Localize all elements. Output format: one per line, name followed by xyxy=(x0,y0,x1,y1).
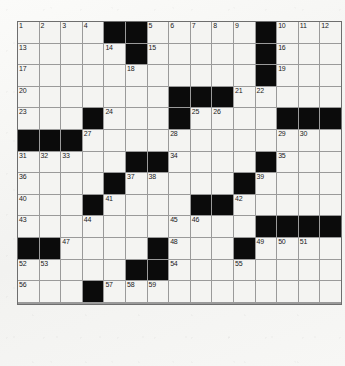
letter-square[interactable] xyxy=(104,260,125,281)
letter-square[interactable] xyxy=(83,152,104,173)
letter-square[interactable] xyxy=(191,173,212,194)
letter-square[interactable]: 15 xyxy=(148,44,169,65)
letter-square[interactable]: 43 xyxy=(18,216,39,237)
letter-square[interactable]: 4 xyxy=(83,22,104,43)
letter-square[interactable]: 5 xyxy=(148,22,169,43)
letter-square[interactable]: 40 xyxy=(18,195,39,216)
letter-square[interactable] xyxy=(83,87,104,108)
letter-square[interactable]: 42 xyxy=(234,195,255,216)
letter-square[interactable] xyxy=(169,173,190,194)
letter-square[interactable] xyxy=(191,238,212,259)
letter-square[interactable] xyxy=(212,65,233,86)
letter-square[interactable]: 59 xyxy=(148,281,169,302)
letter-square[interactable]: 33 xyxy=(61,152,82,173)
letter-square[interactable]: 1 xyxy=(18,22,39,43)
letter-square[interactable] xyxy=(40,44,61,65)
letter-square[interactable] xyxy=(126,216,147,237)
letter-square[interactable] xyxy=(191,44,212,65)
letter-square[interactable] xyxy=(212,238,233,259)
letter-square[interactable]: 7 xyxy=(191,22,212,43)
letter-square[interactable]: 49 xyxy=(256,238,277,259)
letter-square[interactable] xyxy=(299,65,320,86)
letter-square[interactable]: 2 xyxy=(40,22,61,43)
letter-square[interactable] xyxy=(83,260,104,281)
letter-square[interactable]: 6 xyxy=(169,22,190,43)
letter-square[interactable]: 36 xyxy=(18,173,39,194)
letter-square[interactable]: 41 xyxy=(104,195,125,216)
letter-square[interactable] xyxy=(104,152,125,173)
letter-square[interactable] xyxy=(83,173,104,194)
letter-square[interactable] xyxy=(191,152,212,173)
letter-square[interactable] xyxy=(61,87,82,108)
letter-square[interactable]: 20 xyxy=(18,87,39,108)
letter-square[interactable] xyxy=(234,216,255,237)
letter-square[interactable]: 27 xyxy=(83,130,104,151)
letter-square[interactable] xyxy=(126,87,147,108)
letter-square[interactable] xyxy=(212,173,233,194)
letter-square[interactable]: 30 xyxy=(299,130,320,151)
letter-square[interactable] xyxy=(40,281,61,302)
letter-square[interactable] xyxy=(234,130,255,151)
letter-square[interactable]: 37 xyxy=(126,173,147,194)
letter-square[interactable] xyxy=(104,216,125,237)
letter-square[interactable] xyxy=(148,130,169,151)
letter-square[interactable] xyxy=(299,195,320,216)
letter-square[interactable] xyxy=(61,281,82,302)
letter-square[interactable] xyxy=(83,238,104,259)
letter-square[interactable] xyxy=(169,65,190,86)
letter-square[interactable] xyxy=(61,260,82,281)
letter-square[interactable] xyxy=(212,281,233,302)
letter-square[interactable] xyxy=(40,87,61,108)
letter-square[interactable] xyxy=(61,216,82,237)
letter-square[interactable] xyxy=(320,238,341,259)
letter-square[interactable]: 21 xyxy=(234,87,255,108)
letter-square[interactable] xyxy=(126,108,147,129)
letter-square[interactable] xyxy=(234,65,255,86)
letter-square[interactable]: 38 xyxy=(148,173,169,194)
letter-square[interactable]: 24 xyxy=(104,108,125,129)
letter-square[interactable]: 51 xyxy=(299,238,320,259)
letter-square[interactable] xyxy=(191,130,212,151)
letter-square[interactable] xyxy=(256,108,277,129)
letter-square[interactable]: 53 xyxy=(40,260,61,281)
letter-square[interactable] xyxy=(40,173,61,194)
letter-square[interactable] xyxy=(234,281,255,302)
letter-square[interactable] xyxy=(191,281,212,302)
letter-square[interactable] xyxy=(61,65,82,86)
letter-square[interactable]: 48 xyxy=(169,238,190,259)
letter-square[interactable] xyxy=(104,238,125,259)
letter-square[interactable]: 35 xyxy=(277,152,298,173)
crossword-grid[interactable]: 1234567891011121314151617181920212223242… xyxy=(17,21,342,305)
letter-square[interactable] xyxy=(277,195,298,216)
letter-square[interactable]: 50 xyxy=(277,238,298,259)
letter-square[interactable] xyxy=(256,195,277,216)
letter-square[interactable] xyxy=(61,173,82,194)
letter-square[interactable]: 52 xyxy=(18,260,39,281)
letter-square[interactable]: 32 xyxy=(40,152,61,173)
letter-square[interactable] xyxy=(169,195,190,216)
letter-square[interactable] xyxy=(320,281,341,302)
letter-square[interactable]: 3 xyxy=(61,22,82,43)
letter-square[interactable]: 39 xyxy=(256,173,277,194)
letter-square[interactable] xyxy=(148,216,169,237)
letter-square[interactable] xyxy=(83,44,104,65)
letter-square[interactable] xyxy=(234,44,255,65)
letter-square[interactable] xyxy=(320,65,341,86)
letter-square[interactable] xyxy=(320,130,341,151)
letter-square[interactable]: 12 xyxy=(320,22,341,43)
letter-square[interactable] xyxy=(191,65,212,86)
letter-square[interactable]: 25 xyxy=(191,108,212,129)
letter-square[interactable]: 14 xyxy=(104,44,125,65)
letter-square[interactable] xyxy=(256,281,277,302)
letter-square[interactable]: 18 xyxy=(126,65,147,86)
letter-square[interactable]: 11 xyxy=(299,22,320,43)
letter-square[interactable] xyxy=(277,87,298,108)
letter-square[interactable]: 19 xyxy=(277,65,298,86)
letter-square[interactable]: 17 xyxy=(18,65,39,86)
letter-square[interactable] xyxy=(299,44,320,65)
letter-square[interactable] xyxy=(299,152,320,173)
letter-square[interactable] xyxy=(212,130,233,151)
letter-square[interactable] xyxy=(256,260,277,281)
letter-square[interactable]: 46 xyxy=(191,216,212,237)
letter-square[interactable]: 34 xyxy=(169,152,190,173)
